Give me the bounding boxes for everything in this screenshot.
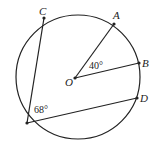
angle-ced-label: 68°	[34, 104, 48, 115]
point-b	[137, 61, 140, 64]
label-a: A	[112, 9, 120, 21]
angle-aob-label: 40°	[89, 60, 103, 71]
label-o: O	[65, 76, 73, 88]
point-e	[25, 121, 28, 124]
point-d	[135, 96, 138, 99]
point-o	[73, 76, 76, 79]
label-c: C	[39, 5, 47, 17]
circle-figure: C A B D O 40° 68°	[0, 0, 160, 154]
label-b: B	[142, 57, 149, 69]
label-d: D	[139, 92, 148, 104]
point-a	[112, 22, 115, 25]
geometry-diagram: C A B D O 40° 68°	[0, 0, 160, 154]
